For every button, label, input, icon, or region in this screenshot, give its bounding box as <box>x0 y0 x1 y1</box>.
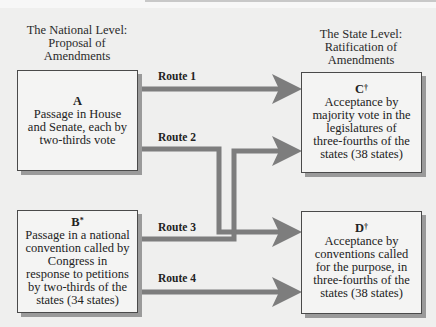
box-c-state-legislatures: C† Acceptance by majority vote in the le… <box>301 72 422 173</box>
box-a-congress-proposal: A Passage in House and Senate, each by t… <box>17 70 138 171</box>
route-2-label: Route 2 <box>158 131 196 143</box>
route-2-arrow <box>137 149 288 232</box>
route-4-label: Route 4 <box>158 272 196 284</box>
national-level-heading: The National Level: Proposal of Amendmen… <box>17 24 137 63</box>
route-3-label: Route 3 <box>158 221 196 233</box>
box-b-national-convention: B* Passage in a national convention call… <box>17 210 138 313</box>
route-1-label: Route 1 <box>158 70 196 82</box>
box-d-state-conventions: D† Acceptance by conventions called for … <box>301 211 422 314</box>
state-level-heading: The State Level: Ratification of Amendme… <box>301 28 421 67</box>
